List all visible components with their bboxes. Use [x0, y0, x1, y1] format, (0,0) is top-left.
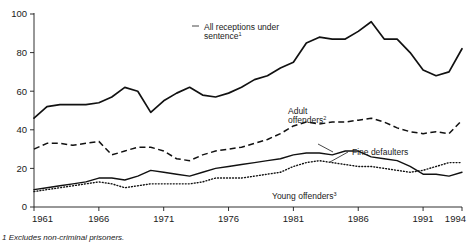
y-axis-ticks: 020406080100 [11, 8, 34, 212]
y-tick-label: 60 [16, 86, 27, 97]
x-tick-label: 1976 [218, 213, 239, 224]
series-paths [34, 22, 462, 192]
series-annotations: All receptions undersentence1Adultoffend… [204, 22, 408, 201]
x-tick-label: 1981 [283, 213, 304, 224]
x-tick-label: 1994 [445, 213, 466, 224]
y-tick-label: 0 [22, 201, 27, 212]
leader-lines [192, 26, 348, 162]
y-tick-label: 40 [16, 124, 27, 135]
x-tick-label: 1966 [88, 213, 109, 224]
x-tick-label: 1986 [348, 213, 369, 224]
chart-footnote: 1 Excludes non-criminal prisoners. [2, 233, 124, 242]
x-tick-label: 1991 [413, 213, 434, 224]
series-label: Fine defaulters [352, 147, 408, 157]
series-label: Young offenders3 [272, 191, 337, 201]
series-label: All receptions undersentence1 [204, 22, 279, 41]
line-chart: 020406080100 196119661971197619811986199… [0, 0, 470, 248]
series-line [34, 161, 462, 192]
y-tick-label: 20 [16, 163, 27, 174]
x-tick-label: 1971 [153, 213, 174, 224]
x-tick-label: 1961 [32, 213, 53, 224]
y-tick-label: 80 [16, 47, 27, 58]
series-line [34, 22, 462, 119]
x-axis-ticks: 19611966197119761981198619911994 [32, 207, 466, 224]
y-tick-label: 100 [11, 8, 27, 19]
chart-canvas: 020406080100 196119661971197619811986199… [0, 0, 470, 248]
leader-line [318, 144, 333, 152]
series-label: Adultoffenders2 [288, 106, 326, 125]
